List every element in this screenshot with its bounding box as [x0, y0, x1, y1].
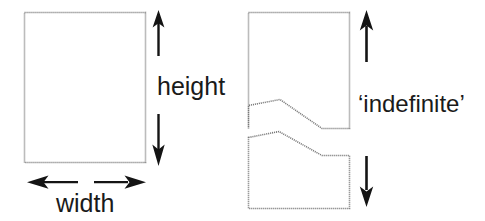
width-label: width — [56, 191, 114, 216]
left-rectangle-outline — [25, 13, 146, 163]
lower-broken-border — [249, 132, 350, 209]
rectangle-border — [25, 13, 146, 163]
upper-broken-border — [249, 13, 350, 129]
height-arrow-down — [152, 114, 164, 166]
height-label: height — [157, 74, 225, 99]
diagram-canvas: height width ‘indefinite’ — [0, 0, 485, 221]
indefinite-arrow-down — [360, 156, 373, 207]
right-shape-upper — [249, 13, 350, 129]
indefinite-arrow-up — [360, 10, 373, 62]
width-arrow-left — [27, 176, 78, 189]
width-arrow-right — [94, 176, 146, 189]
right-shape-lower — [249, 132, 350, 209]
indefinite-label: ‘indefinite’ — [358, 92, 465, 116]
height-arrow-up — [153, 10, 165, 56]
